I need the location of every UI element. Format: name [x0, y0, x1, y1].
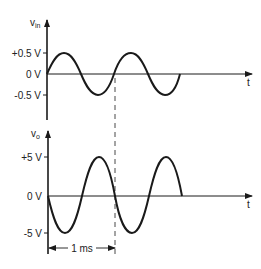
vin-tick-label-neg: -0.5 V: [14, 90, 41, 101]
vin-t-label: t: [247, 77, 250, 88]
waveform-diagram: vin +0.5 V 0 V -0.5 V t vo +5 V 0 V -5 V…: [0, 0, 261, 269]
vo-tick-label-neg: -5 V: [24, 228, 43, 239]
vo-tick-label-zero: 0 V: [27, 191, 42, 202]
period-dimension: 1 ms: [49, 243, 115, 254]
period-label: 1 ms: [71, 243, 93, 254]
vo-t-label: t: [247, 199, 250, 210]
vo-tick-label-pos: +5 V: [21, 152, 42, 163]
vin-tick-label-zero: 0 V: [26, 69, 41, 80]
input-plot: vin +0.5 V 0 V -0.5 V t: [12, 17, 252, 120]
vo-axis-label: vo: [31, 128, 40, 140]
output-plot: vo +5 V 0 V -5 V t: [21, 128, 252, 254]
vin-axis-label: vin: [30, 17, 41, 29]
vin-tick-label-pos: +0.5 V: [12, 48, 42, 59]
